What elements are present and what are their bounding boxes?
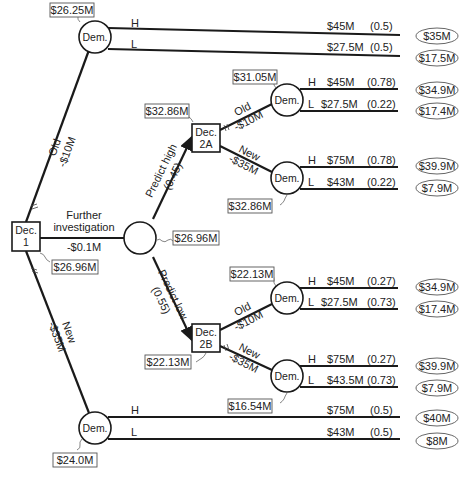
prob-bot-l: (0.5) — [370, 426, 393, 438]
svg-text:Dem.: Dem. — [274, 370, 299, 382]
payoff-bot-l: $43M — [327, 426, 355, 438]
svg-text:$26.96M: $26.96M — [175, 232, 218, 244]
demand-node-2b-new: Dem. — [271, 360, 303, 392]
svg-text:$34.9M: $34.9M — [419, 84, 456, 96]
prob-a-new-h: (0.78) — [367, 154, 396, 166]
svg-text:2B: 2B — [200, 338, 213, 350]
payoff-b-old-h: $45M — [327, 275, 355, 287]
outcome-a-new-h: $39.9M — [416, 158, 458, 174]
svg-text:2A: 2A — [200, 138, 213, 150]
decision-node-1: Dec. 1 — [12, 222, 40, 251]
branch-label-top-l: L — [131, 38, 137, 50]
svg-text:Further: Further — [66, 209, 102, 221]
svg-text:Dec.: Dec. — [195, 326, 217, 338]
branch-label-bot-l: L — [131, 426, 137, 438]
demand-node-bottom: Dem. — [79, 412, 111, 444]
demand-node-2a-new: Dem. — [271, 162, 303, 194]
value-box-dem-2b-old: $22.13M — [230, 267, 276, 286]
payoff-a-old-h: $45M — [327, 76, 355, 88]
svg-text:$7.9M: $7.9M — [422, 182, 453, 194]
outcome-bot-h: $40M — [416, 410, 458, 426]
value-box-dem-2a-new: $32.86M — [228, 195, 287, 213]
svg-text:$17.5M: $17.5M — [419, 52, 456, 64]
branch-label-b-old-l: L — [308, 296, 314, 308]
value-box-chance: $26.96M — [157, 231, 219, 245]
label-further-investigation: Further investigation -$0.1M — [53, 209, 114, 253]
svg-text:Dem.: Dem. — [82, 422, 107, 434]
label-2b-old: Old -$10M — [226, 296, 265, 332]
outcome-top-l: $17.5M — [416, 50, 458, 66]
demand-node-2a-old: Dem. — [271, 84, 303, 116]
svg-text:$26.96M: $26.96M — [54, 261, 97, 273]
label-predict-low: Predict low (0.55) — [144, 268, 190, 327]
branch-label-a-old-h: H — [308, 76, 316, 88]
svg-text:investigation: investigation — [53, 221, 114, 233]
svg-text:Dem.: Dem. — [274, 94, 299, 106]
edge-old — [26, 50, 89, 222]
outcome-bot-l: $8M — [416, 433, 458, 449]
decision-node-2b: Dec. 2B — [192, 324, 220, 352]
label-predict-high: Predict high (0.45) — [143, 142, 191, 205]
svg-text:$7.9M: $7.9M — [422, 382, 453, 394]
svg-text:$31.05M: $31.05M — [234, 71, 277, 83]
branch-label-a-old-l: L — [308, 98, 314, 110]
svg-text:Dec.: Dec. — [195, 126, 217, 138]
branch-label-b-new-l: L — [308, 374, 314, 386]
label-2a-new: New -$35M — [227, 140, 266, 176]
outcome-b-new-l: $7.9M — [416, 380, 458, 396]
demand-node-top: Dem. — [79, 21, 111, 53]
value-box-dec2a: $32.86M — [145, 104, 193, 122]
svg-text:$22.13M: $22.13M — [147, 356, 190, 368]
value-box-dec2b: $22.13M — [145, 353, 206, 369]
decision-tree-diagram: Dec. 1 Dem. Dec. 2A Dec. 2B Dem. Dem. De… — [0, 0, 461, 482]
svg-text:$32.86M: $32.86M — [146, 105, 189, 117]
svg-text:$8M: $8M — [426, 435, 447, 447]
svg-text:$16.54M: $16.54M — [229, 400, 272, 412]
label-2a-old: Old -$10M — [226, 96, 265, 132]
payoff-b-new-h: $75M — [327, 353, 355, 365]
outcome-a-old-h: $34.9M — [416, 82, 458, 98]
branch-label-a-new-h: H — [308, 154, 316, 166]
svg-text:$39.9M: $39.9M — [419, 360, 456, 372]
outcome-b-new-h: $39.9M — [416, 358, 458, 374]
prob-a-old-l: (0.22) — [367, 98, 396, 110]
svg-text:$32.86M: $32.86M — [229, 200, 272, 212]
svg-text:$24.0M: $24.0M — [57, 454, 94, 466]
svg-text:Dem.: Dem. — [274, 292, 299, 304]
svg-text:$34.9M: $34.9M — [419, 281, 456, 293]
prob-b-old-h: (0.27) — [367, 275, 396, 287]
outcome-b-old-l: $17.4M — [416, 301, 458, 317]
value-box-dem-top: $26.25M — [50, 3, 94, 22]
payoff-a-old-l: $27.5M — [321, 98, 358, 110]
outcome-a-old-l: $17.4M — [416, 103, 458, 119]
svg-text:$17.4M: $17.4M — [419, 105, 456, 117]
svg-text:$35M: $35M — [423, 30, 451, 42]
prob-top-l: (0.5) — [370, 41, 393, 53]
svg-text:$26.25M: $26.25M — [51, 4, 94, 16]
prob-b-new-h: (0.27) — [367, 353, 396, 365]
payoff-top-h: $45M — [327, 20, 355, 32]
payoff-b-new-l: $43.5M — [327, 374, 364, 386]
value-box-dem-2b-new: $16.54M — [228, 393, 287, 413]
svg-text:$40M: $40M — [423, 412, 451, 424]
prob-a-old-h: (0.78) — [367, 76, 396, 88]
branch-label-top-h: H — [131, 17, 139, 29]
payoff-b-old-l: $27.5M — [321, 296, 358, 308]
payoff-a-new-h: $75M — [327, 154, 355, 166]
svg-text:$22.13M: $22.13M — [231, 268, 274, 280]
svg-text:$39.9M: $39.9M — [419, 160, 456, 172]
branch-label-b-new-h: H — [308, 353, 316, 365]
svg-text:Dem.: Dem. — [82, 31, 107, 43]
caption-cutoff — [40, 478, 420, 482]
svg-text:Dec.: Dec. — [15, 224, 37, 236]
payoff-top-l: $27.5M — [327, 41, 364, 53]
branch-top-h — [108, 28, 400, 35]
prob-a-new-l: (0.22) — [367, 176, 396, 188]
prob-top-h: (0.5) — [370, 20, 393, 32]
payoff-a-new-l: $43M — [327, 176, 355, 188]
value-box-dec1: $26.96M — [40, 253, 98, 274]
prob-b-old-l: (0.73) — [367, 296, 396, 308]
branch-label-b-old-h: H — [308, 275, 316, 287]
outcome-b-old-h: $34.9M — [416, 279, 458, 295]
demand-node-2b-old: Dem. — [271, 282, 303, 314]
